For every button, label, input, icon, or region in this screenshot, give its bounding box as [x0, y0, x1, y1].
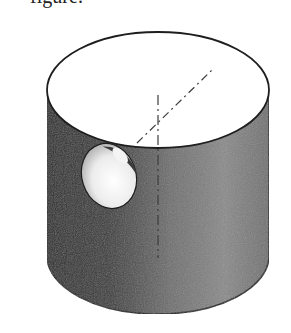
- cylinder-illustration: [0, 0, 291, 333]
- caption-fragment: figure:: [30, 0, 83, 6]
- figure-canvas: figure:: [0, 0, 291, 333]
